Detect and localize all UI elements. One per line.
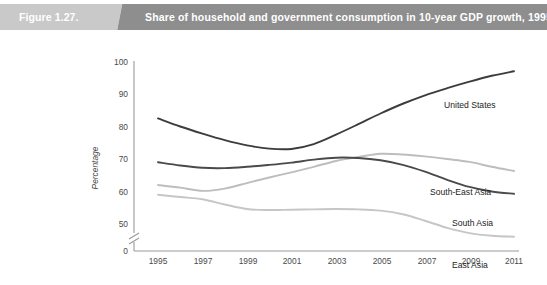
y-tick-100: 100 (114, 57, 128, 67)
x-tick-1995: 1995 (149, 256, 168, 266)
series-label-south-asia: South Asia (452, 218, 493, 228)
figure-title-label: Share of household and government consum… (145, 4, 547, 30)
y-tick-50: 50 (119, 219, 129, 229)
y-tick-70: 70 (119, 154, 129, 164)
series-label-south-east-asia: South-East Asia (430, 187, 491, 197)
series-layer (158, 71, 514, 236)
x-tick-1999: 1999 (239, 256, 258, 266)
series-line-united-states (158, 71, 514, 149)
y-tick-80: 80 (119, 122, 129, 132)
y-tick-90: 90 (119, 89, 129, 99)
line-chart: 100 90 80 70 60 50 0 Percentage 1995 199… (0, 40, 547, 285)
x-tick-2001: 2001 (283, 256, 302, 266)
figure-number-label: Figure 1.27. (19, 4, 79, 30)
series-line-east-asia (158, 195, 514, 237)
y-tick-0: 0 (123, 246, 128, 256)
y-tick-60: 60 (119, 187, 129, 197)
series-label-east-asia: East Asia (452, 260, 488, 270)
x-tick-1997: 1997 (194, 256, 213, 266)
x-tick-2011: 2011 (505, 256, 523, 266)
y-tick-labels: 100 90 80 70 60 50 0 (114, 57, 128, 257)
x-tick-2007: 2007 (418, 256, 437, 266)
y-axis-title: Percentage (90, 146, 100, 189)
header-diagonal-wedge (108, 4, 140, 30)
x-tick-2003: 2003 (328, 256, 347, 266)
x-tick-2005: 2005 (373, 256, 392, 266)
chart-container: 100 90 80 70 60 50 0 Percentage 1995 199… (0, 40, 547, 285)
figure-header-band: Figure 1.27. Share of household and gove… (0, 4, 547, 30)
series-label-united-states: United States (444, 100, 496, 110)
